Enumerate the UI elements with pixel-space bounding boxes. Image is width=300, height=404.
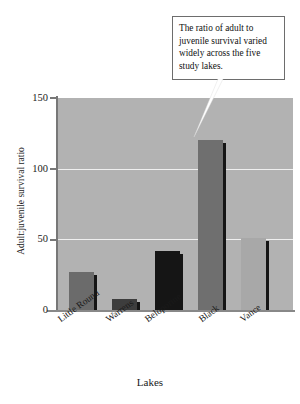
gridline-100 [57, 169, 293, 170]
ytick-mark-150 [50, 97, 57, 99]
ytick-label-50: 50 [4, 234, 48, 245]
bar-shadow-beloporine [180, 254, 183, 310]
callout-pointer-icon [185, 79, 225, 139]
y-axis-line [56, 96, 58, 312]
ytick-mark-100 [50, 168, 57, 170]
callout-text: The ratio of adult to juvenile survival … [179, 22, 279, 72]
x-axis-title: Lakes [0, 376, 300, 388]
bar-shadow-vance [266, 241, 269, 310]
ytick-mark-50 [50, 239, 57, 241]
y-axis-title: Adult:juvenile survival ratio [16, 116, 26, 286]
bar-shadow-black [223, 143, 226, 310]
ytick-label-0: 0 [4, 305, 48, 316]
bar-vance[interactable] [241, 238, 266, 310]
ytick-label-150: 150 [4, 93, 48, 104]
callout-box: The ratio of adult to juvenile survival … [172, 16, 285, 80]
ytick-label-100: 100 [4, 164, 48, 175]
bar-shadow-warrens [137, 302, 140, 310]
bar-black[interactable] [198, 140, 223, 310]
bar-chart-figure: 150 100 50 0 Adult:juvenile survival rat… [0, 0, 300, 404]
plot-area [57, 98, 293, 310]
